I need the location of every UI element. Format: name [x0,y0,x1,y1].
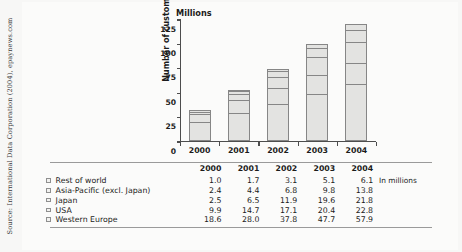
cell-2004-usa: 22.8 [335,205,373,215]
table-unit-note: In millions [373,176,436,186]
table-note-spacer [373,195,436,205]
cell-2004-japan: 21.8 [335,195,373,205]
legend-swatch-icon [46,188,51,193]
table-note-spacer [373,205,436,215]
table-bottom-rule [50,227,432,228]
bar-2002 [267,69,289,141]
bar-segment-2003-usa [306,75,328,95]
bar-segment-2001-western-europe [228,113,250,140]
x-tick-label-2001: 2001 [228,146,250,155]
legend-item-rest-of-world[interactable]: Rest of world [46,176,184,186]
legend-item-usa[interactable]: USA [46,205,184,215]
table-row: Japan2.56.511.919.621.8 [46,195,436,205]
header-note-spacer [373,163,436,176]
table-note-spacer [373,186,436,196]
legend-item-label: Japan [56,196,78,205]
bar-segment-2002-western-europe [267,104,289,141]
y-axis-line [180,20,181,142]
y-tick-label-50: 50 [165,97,180,106]
legend-swatch-icon [46,217,51,222]
plot-area: 0255075100125 20002001200220032004 [180,20,376,142]
cell-2001-rest-of-world: 1.7 [221,176,259,186]
table-note-spacer [373,215,436,225]
bar-2000 [189,110,211,140]
legend-item-label: Rest of world [56,176,107,185]
bar-2004 [345,24,367,140]
cell-2002-western-europe: 37.8 [259,215,297,225]
y-tick-label-25: 25 [165,122,180,131]
bar-segment-2004-western-europe [345,84,367,141]
figure-page: Source: International Data Corporation (… [0,0,462,252]
cell-2000-rest-of-world: 1.0 [184,176,222,186]
figure-panel: Millions Number of customers 02550751001… [22,2,458,250]
x-tick-label-2002: 2002 [267,146,289,155]
bar-2001 [228,90,250,141]
x-tick-mark-end [376,142,377,146]
table-body: Rest of world1.01.73.15.16.1In millionsA… [46,176,436,225]
table-row: Rest of world1.01.73.15.16.1In millions [46,176,436,186]
legend-item-label: USA [56,206,72,215]
legend-swatch-icon [46,208,51,213]
cell-2000-usa: 9.9 [184,205,222,215]
y-tick-mark-75 [177,68,181,69]
legend-value-table: 2000 2001 2002 2003 2004 Rest of world1.… [46,163,436,225]
cell-2004-western-europe: 57.9 [335,215,373,225]
x-tick-label-2004: 2004 [346,146,368,155]
cell-2002-asia-pacific-excl-japan: 6.8 [259,186,297,196]
cell-2002-japan: 11.9 [259,195,297,205]
y-tick-label-75: 75 [165,73,180,82]
legend-item-western-europe[interactable]: Western Europe [46,215,184,225]
x-axis-line [180,141,376,142]
y-tick-label-100: 100 [160,48,180,57]
x-tick-mark-1 [219,142,220,146]
table-row: Asia-Pacific (excl. Japan)2.44.46.89.813… [46,186,436,196]
bar-segment-2003-japan [306,57,328,76]
legend-swatch-icon [46,178,51,183]
table-header-row: 2000 2001 2002 2003 2004 [46,163,436,176]
cell-2002-rest-of-world: 3.1 [259,176,297,186]
x-tick-mark-3 [298,142,299,146]
data-table: 2000 2001 2002 2003 2004 Rest of world1.… [46,162,446,228]
legend-item-asia-pacific-excl-japan[interactable]: Asia-Pacific (excl. Japan) [46,186,184,196]
header-legend-spacer [46,163,184,176]
cell-2004-rest-of-world: 6.1 [335,176,373,186]
chart-unit-heading: Millions [176,8,212,18]
cell-2001-asia-pacific-excl-japan: 4.4 [221,186,259,196]
bar-segment-2000-western-europe [189,122,211,140]
cell-2001-usa: 14.7 [221,205,259,215]
table-row: USA9.914.717.120.422.8 [46,205,436,215]
y-tick-mark-100 [177,44,181,45]
y-tick-label-0: 0 [171,146,180,155]
y-tick-label-125: 125 [160,24,180,33]
cell-2003-japan: 19.6 [297,195,335,205]
cell-2003-usa: 20.4 [297,205,335,215]
x-tick-label-2000: 2000 [189,146,211,155]
bar-segment-2004-usa [345,63,367,85]
y-tick-mark-25 [177,117,181,118]
cell-2002-usa: 17.1 [259,205,297,215]
source-credit: Source: International Data Corporation (… [2,0,18,252]
source-credit-text: Source: International Data Corporation (… [6,18,14,235]
header-year-0: 2000 [184,163,222,176]
legend-item-label: Western Europe [56,215,118,224]
x-tick-label-2003: 2003 [306,146,328,155]
bar-segment-2004-japan [345,42,367,63]
bar-segment-2003-western-europe [306,94,328,141]
bar-segment-2004-asia-pacific-excl-japan [345,30,367,43]
cell-2004-asia-pacific-excl-japan: 13.8 [335,186,373,196]
header-year-2: 2002 [259,163,297,176]
stacked-bar-chart: Millions Number of customers 02550751001… [132,8,382,160]
legend-swatch-icon [46,198,51,203]
legend-item-japan[interactable]: Japan [46,195,184,205]
x-tick-mark-0 [180,142,181,146]
cell-2001-western-europe: 28.0 [221,215,259,225]
cell-2000-japan: 2.5 [184,195,222,205]
y-tick-mark-125 [177,19,181,20]
header-year-1: 2001 [221,163,259,176]
cell-2000-asia-pacific-excl-japan: 2.4 [184,186,222,196]
cell-2003-rest-of-world: 5.1 [297,176,335,186]
x-tick-mark-2 [258,142,259,146]
header-year-3: 2003 [297,163,335,176]
y-tick-mark-50 [177,93,181,94]
legend-item-label: Asia-Pacific (excl. Japan) [56,186,151,195]
